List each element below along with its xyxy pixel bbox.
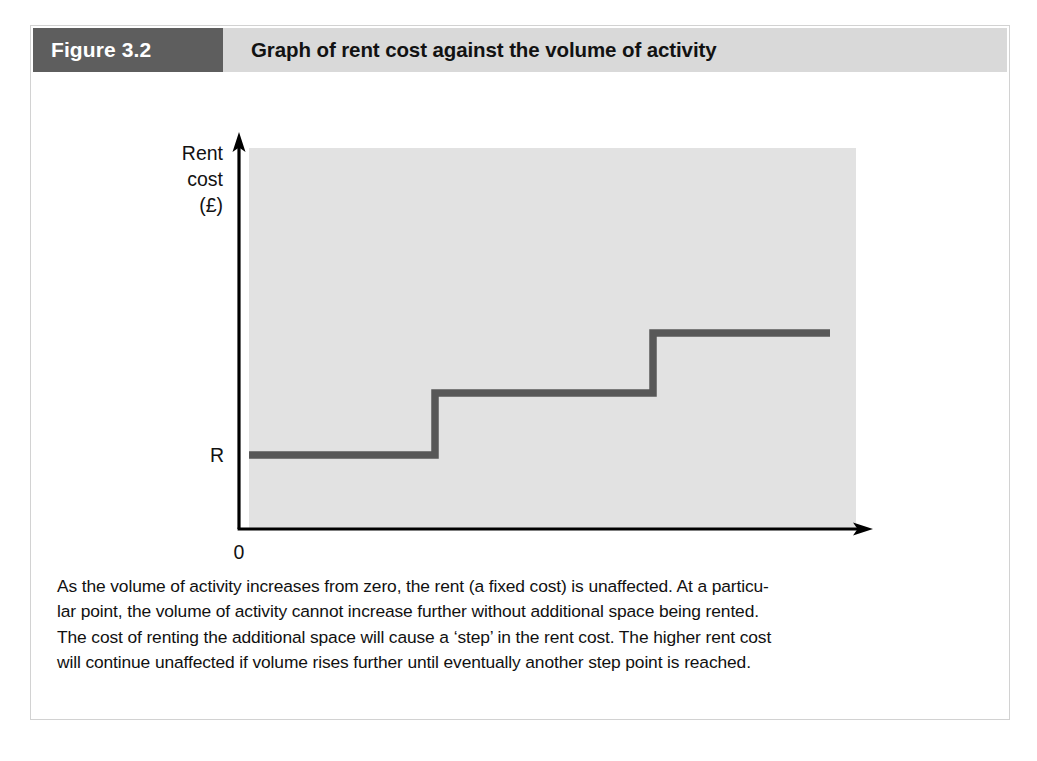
y-axis-label-line1: Rent — [182, 142, 224, 164]
caption-line-1: As the volume of activity increases from… — [57, 574, 985, 599]
plot-background — [249, 148, 856, 529]
y-axis-label-line3: (£) — [199, 194, 223, 216]
caption-line-4: will continue unaffected if volume rises… — [57, 650, 985, 675]
x-axis-label: Volume of activity — [704, 569, 856, 572]
origin-label: 0 — [234, 541, 245, 563]
figure-title: Graph of rent cost against the volume of… — [223, 28, 1007, 72]
figure-number-badge: Figure 3.2 — [33, 28, 223, 72]
rent-level-label: R — [210, 444, 224, 466]
caption-line-2: lar point, the volume of activity cannot… — [57, 599, 985, 624]
chart-area: Rent cost (£) R 0 Volume of activity — [31, 72, 1009, 572]
figure-card: Figure 3.2 Graph of rent cost against th… — [30, 25, 1010, 720]
figure-caption: As the volume of activity increases from… — [57, 574, 985, 676]
figure-header: Figure 3.2 Graph of rent cost against th… — [33, 28, 1007, 72]
y-axis-label-line2: cost — [187, 168, 223, 190]
step-chart: Rent cost (£) R 0 Volume of activity — [31, 72, 1009, 572]
caption-line-3: The cost of renting the additional space… — [57, 625, 985, 650]
